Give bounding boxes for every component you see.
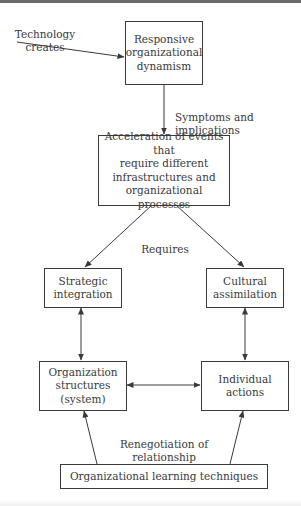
node-individual-actions: Individual actions <box>201 361 289 411</box>
node-label: Organizational learning techniques <box>70 470 258 484</box>
node-label: Cultural assimilation <box>213 275 277 302</box>
node-label: Organization structures (system) <box>48 366 117 407</box>
node-responsive-organizational-dynamism: Responsive organizational dynamism <box>125 21 203 85</box>
renegotiation-label: Renegotiation of relationship <box>108 424 220 465</box>
renegotiation-text: Renegotiation of relationship <box>120 438 208 464</box>
requires-text: Requires <box>141 243 189 255</box>
requires-label: Requires <box>140 229 190 256</box>
node-label: Individual actions <box>218 373 271 400</box>
node-acceleration-of-events: Acceleration of events that require diff… <box>98 135 230 206</box>
node-organization-structures: Organization structures (system) <box>39 361 127 411</box>
node-strategic-integration: Strategic integration <box>44 268 122 308</box>
node-organizational-learning-techniques: Organizational learning techniques <box>60 464 268 489</box>
node-label: Acceleration of events that require diff… <box>99 130 229 211</box>
node-cultural-assimilation: Cultural assimilation <box>206 268 284 308</box>
learning-organization-arrow <box>84 411 97 464</box>
technology-creates-text: Technology creates <box>15 28 75 54</box>
cut-off-caption <box>0 500 301 506</box>
node-label: Strategic integration <box>53 275 112 302</box>
technology-creates-label: Technology creates <box>12 14 78 55</box>
node-label: Responsive organizational dynamism <box>126 33 203 74</box>
learning-individual-arrow <box>230 411 243 464</box>
